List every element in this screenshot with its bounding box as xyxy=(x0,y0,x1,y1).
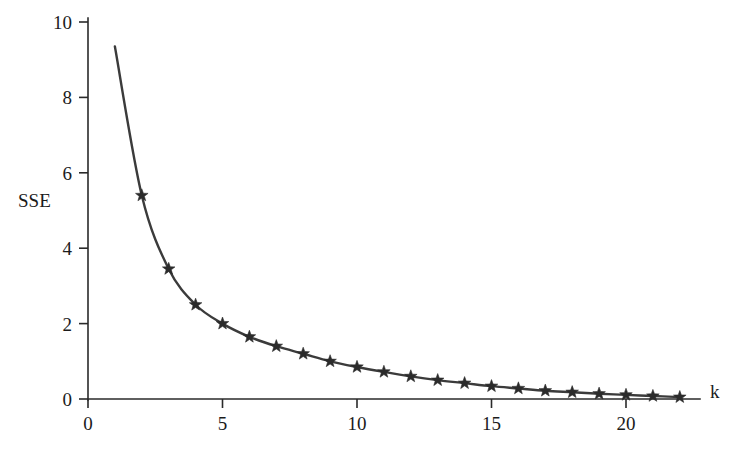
data-point-marker xyxy=(485,380,498,392)
data-point-marker xyxy=(324,355,337,367)
x-tick-label: 0 xyxy=(83,413,93,434)
data-point-marker xyxy=(566,386,579,398)
data-point-marker xyxy=(512,382,525,394)
x-axis-ticks: 05101520 xyxy=(83,399,635,434)
data-point-marker xyxy=(297,347,310,359)
sse-vs-k-chart: 0246810 05101520 SSE k xyxy=(0,0,741,455)
x-tick-label: 15 xyxy=(482,413,501,434)
data-point-marker xyxy=(270,340,283,352)
sse-curve xyxy=(115,47,680,398)
y-tick-label: 2 xyxy=(63,314,73,335)
data-point-marker xyxy=(378,365,391,377)
data-point-marker xyxy=(539,384,552,396)
x-tick-label: 10 xyxy=(348,413,367,434)
x-tick-label: 20 xyxy=(617,413,636,434)
y-axis-title: SSE xyxy=(18,190,51,211)
data-point-marker xyxy=(243,330,256,342)
x-tick-label: 5 xyxy=(218,413,228,434)
data-point-marker xyxy=(351,360,364,372)
figure-container: 0246810 05101520 SSE k xyxy=(0,0,741,455)
data-point-marker xyxy=(674,391,687,403)
sse-data-markers xyxy=(136,189,687,403)
y-axis-ticks: 0246810 xyxy=(53,12,88,410)
y-tick-label: 6 xyxy=(63,163,73,184)
x-axis-title: k xyxy=(710,381,720,402)
data-point-marker xyxy=(458,377,471,389)
y-tick-label: 8 xyxy=(63,87,73,108)
y-tick-label: 0 xyxy=(63,389,73,410)
figure-caption xyxy=(110,436,640,450)
data-point-marker xyxy=(405,370,418,382)
data-point-marker xyxy=(593,387,606,399)
y-tick-label: 10 xyxy=(53,12,72,33)
data-point-marker xyxy=(162,262,175,274)
data-point-marker xyxy=(431,374,444,386)
y-tick-label: 4 xyxy=(63,238,73,259)
